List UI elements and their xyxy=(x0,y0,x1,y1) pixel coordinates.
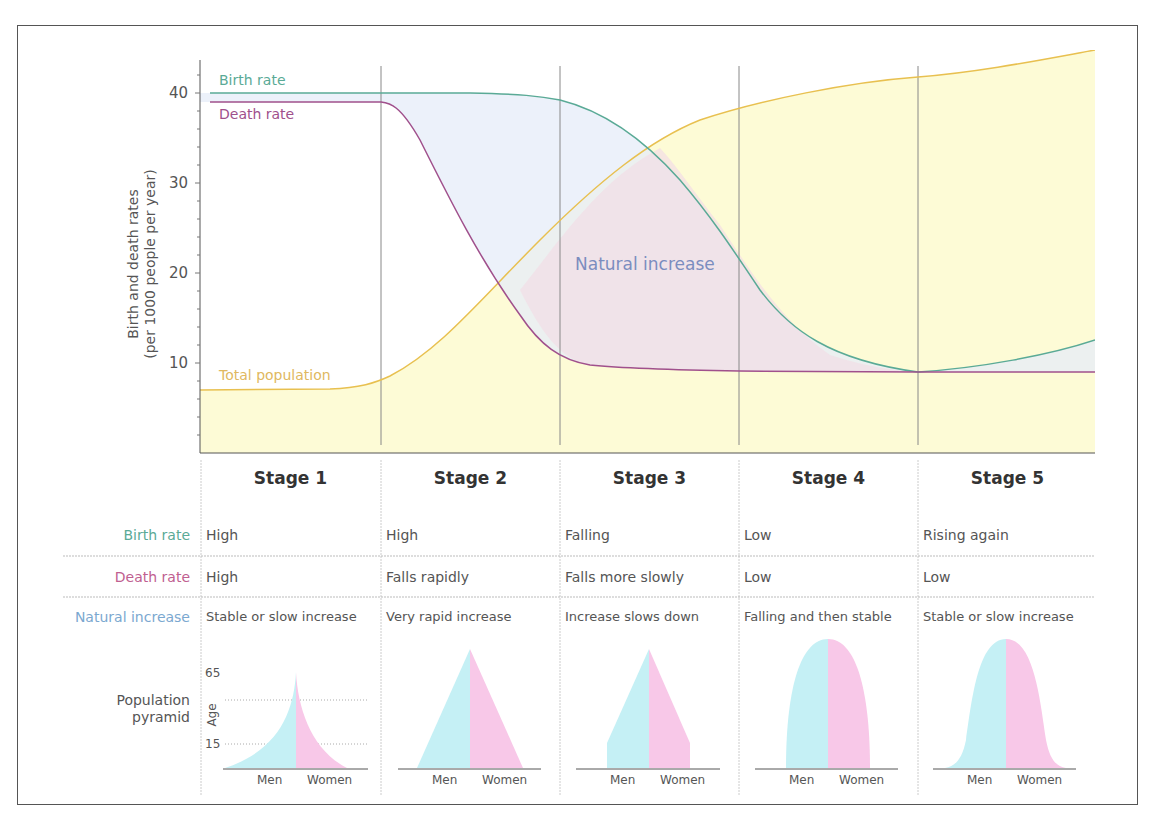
cell-natural-stage1: Stable or slow increase xyxy=(206,609,357,624)
pyramid1-men: Men xyxy=(257,773,282,787)
stage-header-4: Stage 4 xyxy=(739,468,918,488)
age-65-label: 65 xyxy=(205,666,220,680)
pyramid4-women: Women xyxy=(839,773,884,787)
pyramid3-men: Men xyxy=(610,773,635,787)
pyramid-stage-1 xyxy=(223,672,368,769)
stage-header-1: Stage 1 xyxy=(201,468,380,488)
pyramid3-women: Women xyxy=(660,773,705,787)
cell-birth-stage4: Low xyxy=(744,527,772,543)
cell-death-stage5: Low xyxy=(923,569,951,585)
pyramid5-men: Men xyxy=(967,773,992,787)
cell-death-stage3: Falls more slowly xyxy=(565,569,684,585)
total-population-label: Total population xyxy=(219,367,331,383)
row-label-population-pyramid: Population pyramid xyxy=(40,692,190,726)
cell-death-stage4: Low xyxy=(744,569,772,585)
cell-birth-stage3: Falling xyxy=(565,527,610,543)
pyramid5-women: Women xyxy=(1017,773,1062,787)
cell-natural-stage2: Very rapid increase xyxy=(386,609,511,624)
row-label-death-rate: Death rate xyxy=(40,569,190,585)
natural-increase-label: Natural increase xyxy=(575,254,715,274)
pyramid1-women: Women xyxy=(307,773,352,787)
birth-rate-label: Birth rate xyxy=(219,72,286,88)
row-label-natural-increase: Natural increase xyxy=(40,609,190,625)
pyramid-label-line1: Population xyxy=(40,692,190,709)
pyramid-stage-5 xyxy=(933,639,1076,769)
y-axis-title-line1: Birth and death rates xyxy=(125,134,142,394)
pyramid4-men: Men xyxy=(789,773,814,787)
death-rate-label: Death rate xyxy=(219,106,294,122)
cell-natural-stage3: Increase slows down xyxy=(565,609,699,624)
cell-birth-stage5: Rising again xyxy=(923,527,1009,543)
cell-death-stage1: High xyxy=(206,569,238,585)
pyramid2-men: Men xyxy=(432,773,457,787)
age-axis-label: Age xyxy=(205,703,219,726)
y-axis-title: Birth and death rates (per 1000 people p… xyxy=(125,134,159,394)
stage-header-3: Stage 3 xyxy=(560,468,739,488)
cell-natural-stage4: Falling and then stable xyxy=(744,609,892,624)
y-tick-40: 40 xyxy=(148,84,188,102)
cell-natural-stage5: Stable or slow increase xyxy=(923,609,1074,624)
pyramid-stage-4 xyxy=(755,639,898,769)
y-axis-title-line2: (per 1000 people per year) xyxy=(142,134,159,394)
age-15-label: 15 xyxy=(205,737,220,751)
row-label-birth-rate: Birth rate xyxy=(40,527,190,543)
pyramid-stage-2 xyxy=(398,649,541,769)
y-axis-ticks xyxy=(195,75,200,435)
pyramid2-women: Women xyxy=(482,773,527,787)
pyramid-label-line2: pyramid xyxy=(40,709,190,726)
pyramid-stage-3 xyxy=(576,649,720,769)
cell-birth-stage1: High xyxy=(206,527,238,543)
cell-death-stage2: Falls rapidly xyxy=(386,569,469,585)
cell-birth-stage2: High xyxy=(386,527,418,543)
stage-header-2: Stage 2 xyxy=(381,468,560,488)
stage-header-5: Stage 5 xyxy=(918,468,1097,488)
